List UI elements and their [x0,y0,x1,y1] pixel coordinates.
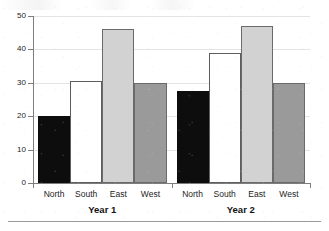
bar-year-2-north [177,91,209,183]
category-label-south: South [70,189,102,199]
bar-year-1-north [38,116,70,183]
group-label-year-1: Year 1 [33,204,172,215]
category-label-west: West [134,189,166,199]
bar-year-2-west [273,83,305,183]
scan-artifact-top [0,0,329,10]
x-tick-mark [310,183,311,188]
bar-year-2-south [209,53,241,183]
y-tick-label: 50 [0,12,26,20]
bar-year-1-west [134,83,166,183]
category-label-east: East [241,189,273,199]
y-tick-label: 20 [0,112,26,120]
x-tick-mark [33,183,34,188]
y-tick-label: 10 [0,146,26,154]
y-tick-label-text: 20 [4,112,26,120]
y-tick-label: 30 [0,79,26,87]
bar-chart-figure: 01020304050 NorthSouthEastWestNorthSouth… [0,0,329,231]
bar-year-1-south [70,81,102,183]
y-tick-label-text: 30 [4,79,26,87]
category-label-south: South [209,189,241,199]
category-label-east: East [102,189,134,199]
y-tick-label: 40 [0,45,26,53]
plot-area [33,16,310,183]
y-tick-label-text: 10 [4,146,26,154]
y-tick-label-text: 0 [4,179,26,187]
category-label-north: North [177,189,209,199]
y-tick-label-text: 50 [4,12,26,20]
bar-year-1-east [102,29,134,183]
category-label-north: North [38,189,70,199]
page-horizontal-rule [8,221,321,222]
category-label-west: West [273,189,305,199]
bar-year-2-east [241,26,273,183]
x-tick-mark [172,183,173,188]
group-label-year-2: Year 2 [172,204,311,215]
y-tick-label-text: 40 [4,45,26,53]
y-tick-label: 0 [0,179,26,187]
